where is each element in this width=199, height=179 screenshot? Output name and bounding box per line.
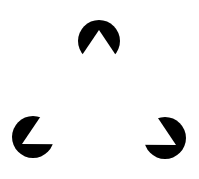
kanizsa-figure <box>0 0 199 179</box>
